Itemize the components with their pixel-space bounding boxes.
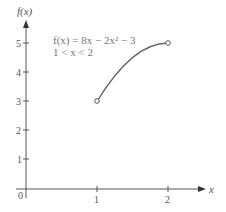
y-tick-label-3: 3: [16, 96, 21, 107]
y-tick-label-5: 5: [16, 38, 21, 49]
y-tick-label-2: 2: [16, 125, 21, 136]
y-axis-label: f(x): [17, 5, 33, 18]
y-axis-arrow-icon: [23, 20, 29, 28]
function-curve: [97, 43, 168, 101]
y-tick-label-4: 4: [16, 67, 21, 78]
open-endpoint-right: [166, 41, 171, 46]
x-axis-label: x: [208, 183, 214, 195]
origin-label: 0: [18, 190, 23, 201]
function-chart: 5 4 3 2 1 0 1 2 f(x) x f(x) = 8x − 2x² −…: [0, 0, 226, 212]
x-tick-label-2: 2: [165, 194, 170, 205]
x-axis-arrow-icon: [198, 186, 206, 192]
open-endpoint-left: [95, 99, 100, 104]
y-tick-label-1: 1: [17, 154, 22, 165]
domain-annotation: 1 < x < 2: [53, 46, 93, 58]
x-tick-label-1: 1: [94, 194, 99, 205]
